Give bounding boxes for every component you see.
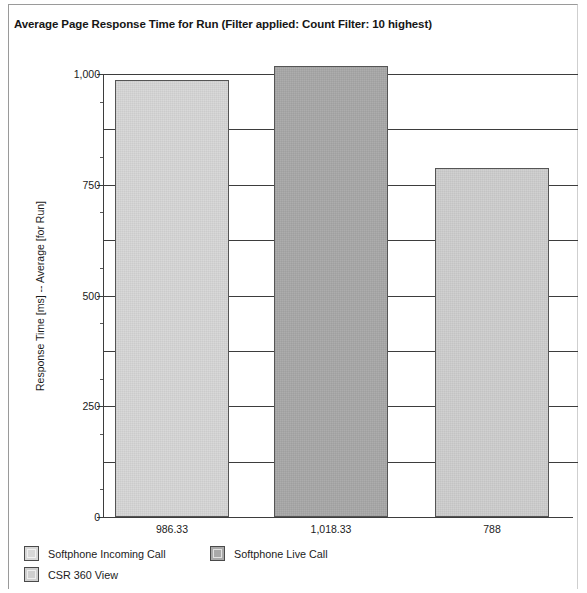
chart-legend: Softphone Incoming Call Softphone Live C…: [24, 543, 564, 585]
y-axis-tick-label: 1,000: [44, 68, 100, 80]
bar[interactable]: [435, 168, 549, 517]
legend-item-label: Softphone Live Call: [234, 548, 328, 560]
bar-texture: [275, 67, 387, 516]
legend-row: Softphone Incoming Call Softphone Live C…: [24, 543, 564, 564]
legend-item-softphone-incoming-call[interactable]: Softphone Incoming Call: [24, 546, 210, 561]
legend-item-csr-360-view[interactable]: CSR 360 View: [24, 567, 118, 582]
bar-texture: [436, 169, 548, 516]
bar[interactable]: [115, 80, 229, 517]
legend-swatch-icon: [24, 546, 39, 561]
bar-texture: [116, 81, 228, 516]
y-axis-tick-label: 500: [44, 290, 100, 302]
legend-item-label: Softphone Incoming Call: [48, 548, 166, 560]
y-axis-line: [103, 74, 104, 518]
legend-item-label: CSR 360 View: [48, 569, 118, 581]
y-axis-tick-labels: 02505007501,000: [22, 0, 100, 593]
x-axis-tick-label: 1,018.33: [274, 523, 388, 535]
y-axis-tick-label: 750: [44, 179, 100, 191]
legend-item-softphone-live-call[interactable]: Softphone Live Call: [210, 546, 328, 561]
x-axis-line: [103, 517, 573, 518]
bar[interactable]: [274, 66, 388, 517]
x-axis-tick-label: 986.33: [115, 523, 229, 535]
legend-row: CSR 360 View: [24, 564, 564, 585]
legend-swatch-icon: [24, 567, 39, 582]
legend-swatch-icon: [210, 546, 225, 561]
y-axis-tick-label: 250: [44, 400, 100, 412]
y-axis-tick-label: 0: [44, 511, 100, 523]
chart-plot-area: Average Page Response Time for Run (Filt…: [0, 0, 587, 593]
x-axis-tick-label: 788: [435, 523, 549, 535]
